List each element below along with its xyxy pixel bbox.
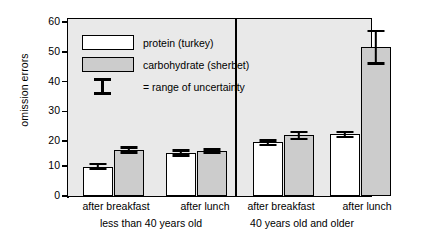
y-tick-label-0: 0 <box>38 189 60 201</box>
bar-chart: omission errors 60 50 40 30 20 10 0 <box>0 0 439 247</box>
bar-protein-1 <box>83 167 113 196</box>
error-bar-protein-4 <box>330 131 360 139</box>
error-bar-cap-top <box>260 139 277 142</box>
error-bar-cap-bottom <box>368 62 385 65</box>
x-panel-label-older: 40 years old and older <box>202 217 402 229</box>
error-bar-cap-bottom <box>337 136 354 139</box>
y-tick-label-60: 60 <box>38 15 60 27</box>
bar-carbohydrate-2 <box>197 151 227 196</box>
error-bar-cap-bottom <box>204 151 221 154</box>
error-bar-cap-bottom <box>173 154 190 157</box>
error-bar-cap-top <box>204 148 221 151</box>
error-bar-cap-top <box>90 163 107 166</box>
error-bar-carbohydrate-3 <box>284 131 314 141</box>
bar-protein-3 <box>253 142 283 196</box>
y-tick-label-20: 20 <box>38 134 60 146</box>
error-bar-cap-top <box>337 131 354 134</box>
error-bar-protein-3 <box>253 139 283 146</box>
error-bar-cap-bottom <box>291 138 308 141</box>
error-bar-protein-2 <box>166 149 196 157</box>
x-group-label-4: after lunch <box>312 200 422 212</box>
x-axis-labels: after breakfast after lunch after breakf… <box>67 200 372 244</box>
bars-layer <box>68 19 371 196</box>
bar-carbohydrate-3 <box>284 135 314 196</box>
bar-protein-4 <box>330 134 360 196</box>
error-bar-cap-top <box>368 30 385 33</box>
bar-carbohydrate-4 <box>361 47 391 196</box>
error-bar-protein-1 <box>83 163 113 171</box>
error-bar-carbohydrate-4 <box>361 30 391 65</box>
error-bar-cap-bottom <box>90 168 107 171</box>
bar-protein-2 <box>166 153 196 196</box>
y-tick-label-30: 30 <box>38 104 60 116</box>
error-bar-cap-top <box>121 146 138 149</box>
error-bar-carbohydrate-2 <box>197 148 227 154</box>
error-bar-cap-top <box>291 131 308 134</box>
error-bar-cap-bottom <box>121 151 138 154</box>
error-bar-cap-top <box>173 149 190 152</box>
error-bar-stem <box>375 30 377 65</box>
error-bar-carbohydrate-1 <box>114 146 144 154</box>
bar-carbohydrate-1 <box>114 150 144 196</box>
error-bar-cap-bottom <box>260 144 277 147</box>
y-tick-label-50: 50 <box>38 45 60 57</box>
y-tick-label-10: 10 <box>38 159 60 171</box>
y-axis-title: omission errors <box>18 20 30 160</box>
y-tick-label-40: 40 <box>38 75 60 87</box>
plot-area: protein (turkey) carbohydrate (sherbet) … <box>67 18 372 197</box>
